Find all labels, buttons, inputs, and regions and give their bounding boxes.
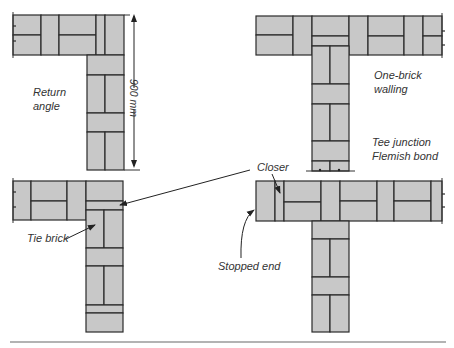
label-line: angle xyxy=(33,99,66,113)
label-closer: Closer xyxy=(257,160,289,174)
label-tee-junction: Tee junction Flemish bond xyxy=(372,135,438,163)
label-line: Tee junction xyxy=(372,135,438,149)
label-line: One-brick xyxy=(374,68,422,82)
label-stopped-end: Stopped end xyxy=(218,259,280,273)
label-tie-brick: Tie brick xyxy=(27,231,68,245)
brick-bond-diagram xyxy=(0,0,454,348)
return-angle-top xyxy=(13,12,130,170)
stopped-end-leader xyxy=(241,210,254,258)
return-angle-bottom xyxy=(13,178,123,332)
label-one-brick-walling: One-brick walling xyxy=(374,68,422,96)
label-line: Return xyxy=(33,85,66,99)
label-line: Flemish bond xyxy=(372,149,438,163)
label-900mm: 900 mm xyxy=(128,78,140,118)
tee-junction-bottom xyxy=(256,178,445,332)
label-line: walling xyxy=(374,82,422,96)
label-return-angle: Return angle xyxy=(33,85,66,113)
